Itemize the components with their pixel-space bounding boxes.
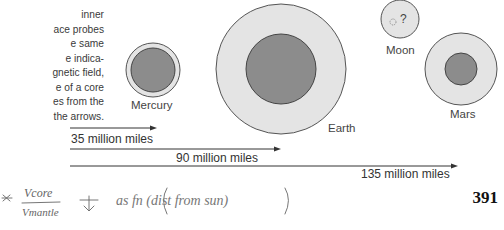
distance-arrow-mercury xyxy=(70,126,157,131)
note-numerator: Vcore xyxy=(24,186,53,200)
planet-label-moon: Moon xyxy=(386,44,415,56)
planet-label-mercury: Mercury xyxy=(131,99,173,111)
distance-label-mars: 135 million miles xyxy=(361,167,450,181)
handwritten-note: Vcore Vmantle as fn (dist from sun) xyxy=(0,180,300,230)
planet-label-earth: Earth xyxy=(328,122,356,134)
earth-figure xyxy=(216,4,346,134)
planet-label-mars: Mars xyxy=(450,108,476,120)
distance-label-earth: 90 million miles xyxy=(176,151,258,165)
mars-figure xyxy=(425,33,497,105)
note-denominator: Vmantle xyxy=(22,206,59,218)
page-number: 391 xyxy=(473,188,499,208)
mercury-figure xyxy=(126,43,180,97)
note-rest: as fn (dist from sun) xyxy=(116,193,229,209)
distance-label-mercury: 35 million miles xyxy=(71,132,153,146)
moon-core-question: ? xyxy=(400,12,407,26)
